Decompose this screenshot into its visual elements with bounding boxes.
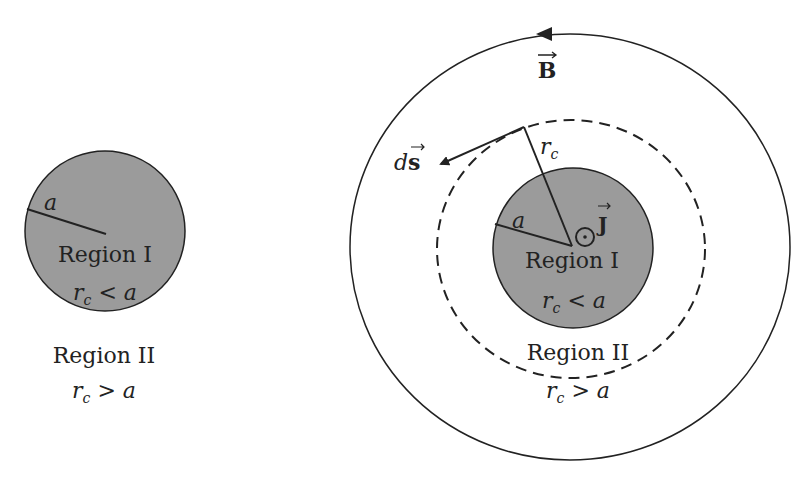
current-dot-icon xyxy=(583,235,587,239)
radius-label: a xyxy=(44,190,57,215)
region1-condition: rc < a xyxy=(73,280,137,308)
region1-label: Region I xyxy=(525,248,619,273)
field-direction-arrow-icon xyxy=(536,27,552,41)
region2-condition: rc > a xyxy=(72,378,136,406)
path-element-label: ds xyxy=(394,149,420,175)
region2-condition: rc > a xyxy=(546,378,610,406)
amperian-radius-label: rc xyxy=(540,134,559,162)
left-diagram: a Region I rc < a Region II rc > a xyxy=(25,151,185,406)
ampere-law-diagram: a Region I rc < a Region II rc > a B rc … xyxy=(0,0,809,489)
region1-label: Region I xyxy=(58,242,152,267)
current-density-label: J xyxy=(596,213,607,237)
region2-label: Region II xyxy=(527,340,630,365)
radius-label: a xyxy=(512,208,525,233)
right-diagram: B rc ds a J Region I rc < a Region II xyxy=(350,27,790,460)
path-element-arrow xyxy=(441,127,524,164)
field-label: B xyxy=(538,57,557,83)
region2-label: Region II xyxy=(53,343,156,368)
region1-condition: rc < a xyxy=(542,288,606,316)
